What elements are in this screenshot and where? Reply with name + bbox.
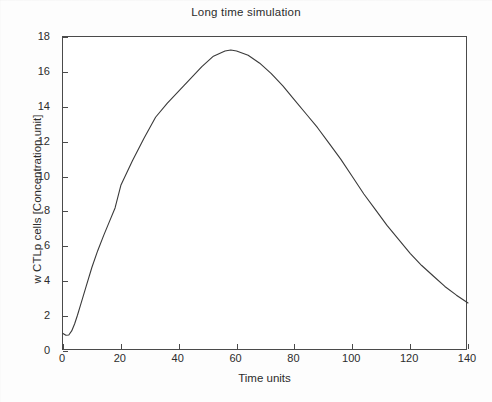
y-axis-tick: [63, 316, 68, 317]
y-axis-tick: [63, 37, 68, 38]
chart-title: Long time simulation: [0, 6, 492, 18]
y-tick-label-group: 024681012141618: [0, 36, 58, 350]
x-tick-label: 40: [172, 352, 184, 364]
x-axis-tick: [410, 344, 411, 349]
x-axis-tick: [237, 344, 238, 349]
x-tick-label-group: 020406080100120140: [62, 352, 467, 372]
x-tick-label: 0: [59, 352, 65, 364]
plot-area: [62, 36, 467, 350]
x-tick-label: 20: [114, 352, 126, 364]
y-axis-tick: [63, 211, 68, 212]
figure-canvas: Long time simulation w CTLp cells [Conce…: [0, 0, 492, 402]
y-tick-label: 2: [44, 309, 50, 321]
y-axis-tick: [63, 72, 68, 73]
x-axis-tick: [179, 344, 180, 349]
y-axis-tick: [63, 142, 68, 143]
x-axis-title: Time units: [62, 372, 467, 384]
y-tick-label: 12: [38, 135, 50, 147]
x-axis-tick: [63, 344, 64, 349]
x-tick-label: 120: [400, 352, 418, 364]
y-tick-label: 16: [38, 65, 50, 77]
y-tick-label: 18: [38, 30, 50, 42]
y-tick-label: 0: [44, 344, 50, 356]
x-axis-tick: [121, 344, 122, 349]
series-line-w-ctlp-cells: [63, 50, 468, 335]
x-axis-tick: [294, 344, 295, 349]
x-tick-label: 60: [229, 352, 241, 364]
y-tick-label: 6: [44, 239, 50, 251]
y-axis-tick: [63, 107, 68, 108]
x-tick-label: 80: [287, 352, 299, 364]
y-axis-tick: [63, 281, 68, 282]
x-tick-label: 140: [458, 352, 476, 364]
x-axis-tick: [352, 344, 353, 349]
y-tick-label: 4: [44, 274, 50, 286]
y-tick-label: 8: [44, 204, 50, 216]
x-axis-tick: [468, 344, 469, 349]
data-curve-layer: [63, 37, 468, 351]
y-tick-label: 14: [38, 100, 50, 112]
x-tick-label: 100: [342, 352, 360, 364]
y-axis-tick: [63, 177, 68, 178]
y-tick-label: 10: [38, 170, 50, 182]
y-axis-tick: [63, 246, 68, 247]
